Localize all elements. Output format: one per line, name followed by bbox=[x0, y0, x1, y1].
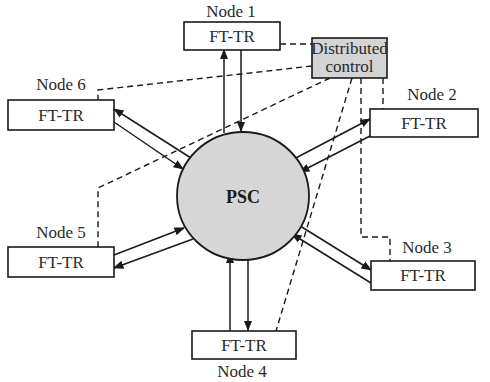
node-3: Node 3 FT-TR bbox=[371, 238, 475, 290]
arrow-node3-to-psc bbox=[292, 234, 371, 283]
psc-label: PSC bbox=[226, 187, 260, 207]
node-1-box-label: FT-TR bbox=[209, 27, 255, 46]
node-2-label: Node 2 bbox=[407, 85, 457, 104]
node-4-box-label: FT-TR bbox=[221, 336, 267, 355]
arrow-psc-to-node6 bbox=[114, 109, 191, 158]
node-1-label: Node 1 bbox=[206, 2, 256, 21]
distributed-control: Distributed control bbox=[311, 38, 388, 78]
node-3-box-label: FT-TR bbox=[400, 266, 446, 285]
controller-label-line2: control bbox=[325, 57, 373, 76]
network-diagram: PSC Distributed control Node 1 FT-TR Nod… bbox=[0, 0, 490, 382]
node-3-label: Node 3 bbox=[402, 238, 452, 257]
controller-label-line1: Distributed bbox=[311, 39, 388, 58]
node-4: FT-TR Node 4 bbox=[192, 331, 296, 381]
arrow-psc-to-node5 bbox=[114, 239, 193, 268]
node-2-box-label: FT-TR bbox=[401, 114, 447, 133]
node-6: Node 6 FT-TR bbox=[8, 75, 114, 130]
node-1: Node 1 FT-TR bbox=[184, 2, 280, 50]
node-2: Node 2 FT-TR bbox=[370, 85, 478, 137]
arrow-node5-to-psc bbox=[114, 228, 184, 255]
node-5-box-label: FT-TR bbox=[38, 253, 84, 272]
control-link-node3 bbox=[361, 78, 390, 261]
arrow-node2-to-psc bbox=[300, 136, 370, 172]
node-6-label: Node 6 bbox=[36, 75, 86, 94]
node-5-label: Node 5 bbox=[36, 223, 86, 242]
node-5: Node 5 FT-TR bbox=[8, 223, 114, 277]
control-link-node6 bbox=[98, 66, 312, 100]
arrow-psc-to-node3 bbox=[297, 224, 371, 270]
arrow-psc-to-node2 bbox=[292, 119, 370, 160]
node-6-box-label: FT-TR bbox=[38, 106, 84, 125]
psc-hub: PSC bbox=[177, 132, 309, 260]
node-4-label: Node 4 bbox=[217, 362, 267, 381]
